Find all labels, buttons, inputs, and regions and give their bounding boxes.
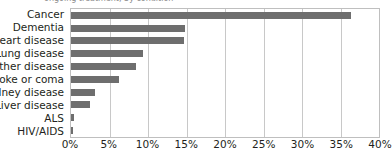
- category-label: HIV/AIDS: [0, 125, 68, 138]
- category-label: Dementia: [0, 21, 68, 34]
- plot-area: [70, 8, 380, 138]
- bar: [71, 101, 90, 108]
- bar: [71, 76, 119, 83]
- value-tick-label: 5%: [100, 139, 117, 150]
- value-tick-label: 40%: [368, 139, 391, 150]
- bar: [71, 37, 184, 44]
- value-tick-label: 0%: [62, 139, 79, 150]
- cropped-title-sliver: ongoing treatment, by condition: [0, 0, 390, 7]
- bar: [71, 127, 73, 134]
- category-label: ALS: [0, 112, 68, 125]
- value-tick-label: 20%: [213, 139, 236, 150]
- category-label: Lung disease: [0, 47, 68, 60]
- bar: [71, 50, 143, 57]
- bar: [71, 114, 74, 121]
- category-label: Stroke or coma: [0, 73, 68, 86]
- bar-row: [71, 124, 379, 137]
- bar-series: [71, 9, 379, 137]
- bar-row: [71, 22, 379, 35]
- bar: [71, 89, 95, 96]
- bar-row: [71, 9, 379, 22]
- category-axis: CancerDementiaHeart diseaseLung diseaseO…: [0, 8, 68, 138]
- value-tick-label: 30%: [291, 139, 314, 150]
- bar: [71, 63, 136, 70]
- bar-row: [71, 47, 379, 60]
- bar-row: [71, 86, 379, 99]
- category-label: Liver disease: [0, 99, 68, 112]
- value-tick-label: 10%: [136, 139, 159, 150]
- bar-row: [71, 73, 379, 86]
- bar-row: [71, 35, 379, 48]
- bar-row: [71, 99, 379, 112]
- bar-row: [71, 60, 379, 73]
- cropped-title-text: ongoing treatment, by condition: [44, 0, 173, 3]
- value-tick-label: 25%: [252, 139, 275, 150]
- value-tick-label: 15%: [175, 139, 198, 150]
- value-axis: 0%5%10%15%20%25%30%35%40%: [70, 139, 380, 155]
- value-tick-label: 35%: [330, 139, 353, 150]
- category-label: Cancer: [0, 8, 68, 21]
- category-label: Other disease: [0, 60, 68, 73]
- category-label: Kidney disease: [0, 86, 68, 99]
- bar: [71, 25, 185, 32]
- category-label: Heart disease: [0, 34, 68, 47]
- bar-row: [71, 111, 379, 124]
- bar: [71, 12, 351, 19]
